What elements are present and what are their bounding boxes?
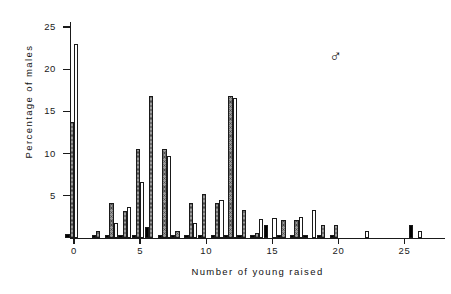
bar-white-x11 xyxy=(219,200,223,238)
bar-black-x5 xyxy=(132,235,136,238)
bar-hatched-x16 xyxy=(281,220,285,238)
bar-black-x14 xyxy=(250,235,254,238)
bar-hatched-x20 xyxy=(334,225,338,239)
x-axis-label: Number of young raised xyxy=(70,266,445,277)
x-axis-line xyxy=(70,238,445,239)
bar-black-x4 xyxy=(118,235,122,238)
bar-hatched-x2 xyxy=(96,231,100,238)
bar-black-x0 xyxy=(65,234,69,238)
bar-black-x13 xyxy=(237,235,241,238)
y-tick xyxy=(63,111,70,112)
y-tick-label: 15 xyxy=(30,105,56,116)
x-tick-label: 20 xyxy=(323,245,353,256)
bar-black-x8 xyxy=(171,235,175,238)
y-tick xyxy=(63,69,70,70)
bar-white-x4 xyxy=(127,207,131,238)
bar-white-x12 xyxy=(233,98,237,238)
x-tick xyxy=(272,238,273,244)
x-tick xyxy=(73,238,74,244)
x-tick-label: 10 xyxy=(191,245,221,256)
bar-hatched-x13 xyxy=(242,210,246,238)
bar-black-x3 xyxy=(105,235,109,238)
bar-black-x7 xyxy=(158,235,162,238)
y-axis-label: Percentage of males xyxy=(23,12,34,192)
male-symbol-icon: ♂ xyxy=(329,48,342,65)
y-tick-label: 5 xyxy=(30,190,56,201)
x-tick xyxy=(206,238,207,244)
bar-black-x9 xyxy=(184,235,188,238)
x-tick-label: 0 xyxy=(59,245,89,256)
x-tick xyxy=(139,238,140,244)
bar-hatched-x10 xyxy=(202,194,206,238)
bar-black-x17 xyxy=(290,235,294,238)
bar-black-x26 xyxy=(409,225,413,239)
bar-black-x20 xyxy=(330,235,334,238)
bar-black-x18 xyxy=(303,235,307,238)
bar-black-x11 xyxy=(211,235,215,238)
bar-black-x10 xyxy=(198,235,202,238)
bar-white-x22 xyxy=(365,231,369,238)
bar-black-x16 xyxy=(277,235,281,238)
y-tick-label: 10 xyxy=(30,148,56,159)
bar-hatched-x6 xyxy=(149,96,153,238)
x-tick-label: 15 xyxy=(257,245,287,256)
x-tick-label: 25 xyxy=(390,245,420,256)
bar-hatched-x8 xyxy=(175,231,179,238)
bar-hatched-x19 xyxy=(321,225,325,239)
bar-white-x7 xyxy=(167,156,171,238)
bar-black-x19 xyxy=(317,235,321,238)
bar-black-x6 xyxy=(145,227,149,238)
bar-white-x26 xyxy=(418,231,422,238)
y-tick-label: 20 xyxy=(30,63,56,74)
bar-white-x0 xyxy=(74,44,78,238)
bar-black-x2 xyxy=(92,235,96,238)
y-tick xyxy=(63,26,70,27)
bar-black-x12 xyxy=(224,235,228,238)
x-tick-label: 5 xyxy=(125,245,155,256)
bar-black-x15 xyxy=(264,225,268,238)
x-tick xyxy=(404,238,405,244)
y-tick-label: 25 xyxy=(30,21,56,32)
chart-figure: 510152025 0510152025 Percentage of males… xyxy=(0,0,451,294)
x-tick xyxy=(338,238,339,244)
